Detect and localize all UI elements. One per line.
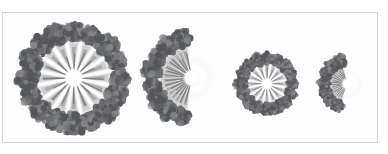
figure-canvas [3, 13, 377, 142]
figure-root [0, 0, 388, 154]
small-full-assembly [232, 50, 300, 116]
large-full-assembly [13, 21, 131, 136]
large-cutaway-assembly [140, 28, 215, 127]
figure-panel [2, 12, 378, 143]
small-cutaway-assembly [315, 53, 363, 114]
